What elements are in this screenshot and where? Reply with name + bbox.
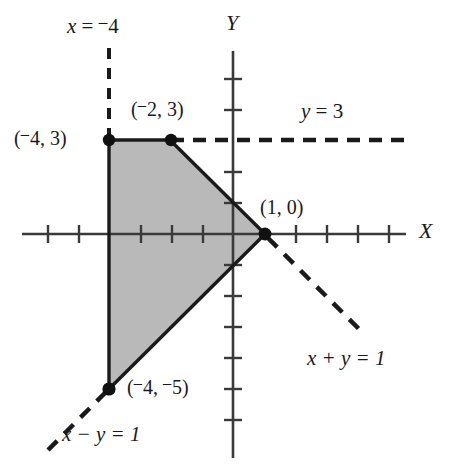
axis-label-y: Y [226, 12, 238, 34]
label-y-eq-3-lhs: y [301, 99, 310, 123]
label-y-eq-3-num: 3 [333, 99, 344, 123]
neg-sign-x: – [134, 373, 143, 392]
neg-sign: – [138, 95, 147, 114]
coord-sep: , [157, 98, 167, 120]
dot-1-0 [259, 228, 272, 241]
paren-close: ) [297, 196, 304, 218]
label-x-eq-neg4-eq: = [82, 14, 94, 38]
coord-x: 4 [30, 127, 40, 149]
axis-label-x: X [419, 220, 432, 242]
label-y-eq-3-eq: = [316, 99, 328, 123]
label-vertex-neg4-neg5: (–4, –5) [127, 377, 189, 397]
paren-open: ( [14, 127, 21, 149]
coord-sep: , [153, 376, 163, 398]
paren-close: ) [60, 127, 67, 149]
label-vertex-neg2-3: (–2, 3) [131, 99, 184, 119]
neg-sign: – [21, 124, 30, 143]
coord-y: 5 [172, 376, 182, 398]
dashed-line-x-plus-y-eq-1 [268, 238, 360, 330]
dot-neg4-neg5 [102, 382, 115, 395]
paren-close: ) [182, 376, 189, 398]
label-x-eq-neg4-num: 4 [108, 14, 119, 38]
coord-sep: , [277, 196, 287, 218]
label-x-eq-neg4-lhs: x [67, 14, 76, 38]
paren-open: ( [127, 376, 134, 398]
coord-y: 3 [167, 98, 177, 120]
coord-x: 1 [267, 196, 277, 218]
graph-figure: x = –4 y = 3 x + y = 1 x − y = 1 (–4, 3)… [0, 0, 454, 476]
label-line-x-eq-neg4: x = –4 [67, 16, 119, 37]
paren-close: ) [177, 98, 184, 120]
dot-neg2-3 [165, 134, 177, 146]
graph-canvas [0, 0, 454, 476]
coord-x: 4 [143, 376, 153, 398]
paren-open: ( [131, 98, 138, 120]
paren-open: ( [260, 196, 267, 218]
label-line-y-eq-3: y = 3 [301, 101, 343, 122]
dot-neg4-3 [103, 134, 115, 146]
neg-sign-y: – [163, 373, 172, 392]
coord-y: 0 [287, 196, 297, 218]
label-x-eq-neg4-neg: – [99, 12, 109, 31]
label-line-x-minus-y-eq-1: x − y = 1 [62, 424, 140, 445]
coord-sep: , [40, 127, 50, 149]
label-vertex-neg4-3: (–4, 3) [14, 128, 67, 148]
label-line-x-plus-y-eq-1: x + y = 1 [307, 348, 385, 369]
coord-y: 3 [50, 127, 60, 149]
coord-x: 2 [147, 98, 157, 120]
label-vertex-1-0: (1, 0) [260, 197, 303, 217]
